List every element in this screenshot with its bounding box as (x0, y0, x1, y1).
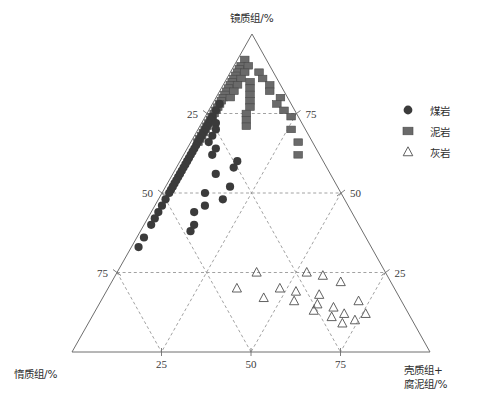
data-point-square (246, 97, 255, 104)
right-axis-tick-label: 25 (395, 267, 407, 279)
data-point-triangle (252, 268, 261, 277)
vertex-label-bottom-left: 惰质组/% (14, 368, 58, 380)
grid-layer (117, 114, 386, 353)
data-point-square (242, 123, 251, 130)
legend-marker-square (403, 127, 413, 135)
data-point-square (294, 152, 303, 159)
data-point-circle (201, 189, 209, 197)
legend: 煤岩泥岩灰岩 (403, 105, 450, 159)
data-point-square (244, 63, 253, 70)
legend-label-circle: 煤岩 (430, 105, 450, 117)
left-axis-tick-label: 75 (97, 267, 109, 279)
data-point-square (273, 101, 282, 108)
vertex-label-bottom-right-1: 壳质组+ (404, 364, 443, 376)
data-point-circle (233, 157, 241, 165)
data-point-square (276, 94, 285, 101)
data-point-square (233, 82, 242, 89)
ternary-plot-svg: 255075755025255075 镜质组/%惰质组/%壳质组+腐泥组/% 煤… (0, 0, 496, 406)
bottom-axis-tick-label: 50 (246, 358, 258, 370)
data-point-triangle (327, 312, 336, 321)
data-point-square (246, 85, 255, 92)
data-point-circle (147, 221, 155, 229)
data-point-triangle (340, 309, 349, 318)
data-point-circle (140, 233, 148, 241)
data-point-square (237, 75, 246, 82)
data-point-square (258, 75, 267, 82)
bottom-axis-tick-label: 25 (156, 358, 168, 370)
data-point-circle (134, 243, 142, 251)
data-point-triangle (350, 315, 359, 324)
vertex-label-top: 镜质组/% (230, 12, 274, 24)
data-point-square (287, 126, 296, 133)
data-point-triangle (338, 318, 347, 327)
data-point-triangle (259, 293, 268, 302)
data-point-circle (208, 151, 216, 159)
data-point-circle (212, 170, 220, 178)
data-point-square (255, 69, 264, 76)
data-point-circle (201, 202, 209, 210)
legend-label-triangle: 灰岩 (430, 147, 450, 159)
data-point-square (246, 78, 255, 85)
vertex-label-layer: 镜质组/%惰质组/%壳质组+腐泥组/% (14, 12, 448, 390)
data-point-circle (226, 183, 234, 191)
right-axis-tick-label: 50 (350, 187, 362, 199)
data-point-square (240, 56, 249, 63)
data-point-square (226, 94, 235, 101)
vertex-label-bottom-right-2: 腐泥组/% (404, 378, 448, 390)
data-point-square (242, 117, 251, 124)
data-point-triangle (232, 283, 241, 292)
data-point-square (287, 113, 296, 120)
data-point-circle (205, 138, 213, 146)
bottom-axis-tick-label: 75 (335, 358, 347, 370)
data-point-triangle (275, 283, 284, 292)
data-point-square (294, 139, 303, 146)
data-point-circle (190, 208, 198, 216)
legend-label-square: 泥岩 (430, 126, 450, 138)
data-point-square (265, 88, 274, 95)
data-point-square (246, 91, 255, 98)
left-axis-tick-label: 50 (142, 187, 154, 199)
data-point-triangle (302, 268, 311, 277)
ternary-chart: 255075755025255075 镜质组/%惰质组/%壳质组+腐泥组/% 煤… (0, 0, 496, 406)
data-point-triangle (290, 296, 299, 305)
data-point-square (242, 110, 251, 117)
legend-marker-triangle (403, 147, 413, 156)
legend-marker-circle (404, 106, 413, 115)
data-point-square (240, 69, 249, 76)
data-point-triangle (315, 290, 324, 299)
data-point-triangle (318, 271, 327, 280)
right-axis-tick-label: 75 (306, 108, 318, 120)
data-point-square (280, 107, 289, 114)
left-axis-tick-label: 25 (187, 108, 199, 120)
data-point-square (246, 104, 255, 111)
data-point-triangle (291, 287, 300, 296)
data-point-square (230, 88, 239, 95)
data-point-triangle (354, 296, 363, 305)
data-point-circle (186, 227, 194, 235)
data-point-square (265, 82, 274, 89)
data-point-triangle (329, 302, 338, 311)
data-point-circle (219, 195, 227, 203)
data-point-triangle (336, 277, 345, 286)
